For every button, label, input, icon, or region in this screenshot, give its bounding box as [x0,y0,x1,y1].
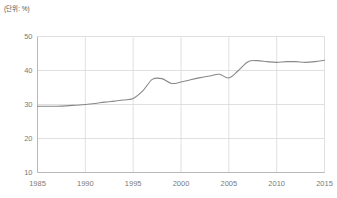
y-axis-tick-labels: 1020304050 [24,32,32,177]
y-tick-label: 40 [24,66,32,75]
chart-plot-area: 1020304050 1985199019952000200520102015 [0,0,337,198]
x-tick-label: 2015 [316,179,333,188]
line-chart: (단위: %) 1020304050 198519901995200020052… [0,0,337,198]
y-tick-label: 20 [24,134,32,143]
x-tick-label: 2010 [268,179,285,188]
x-tick-label: 1985 [29,179,46,188]
x-tick-label: 1995 [125,179,142,188]
y-tick-label: 30 [24,100,32,109]
x-tick-label: 2000 [173,179,190,188]
x-tick-label: 1990 [77,179,94,188]
x-axis-tick-labels: 1985199019952000200520102015 [29,179,333,188]
y-tick-label: 50 [24,32,32,41]
x-tick-label: 2005 [220,179,237,188]
y-tick-label: 10 [24,168,32,177]
